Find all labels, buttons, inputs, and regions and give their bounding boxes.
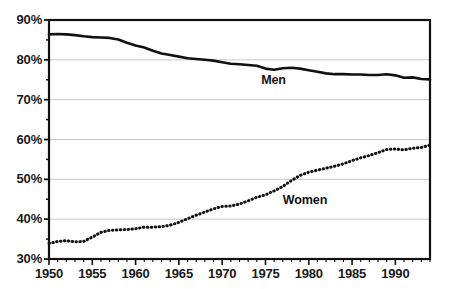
ytick-label: 90% bbox=[0, 12, 42, 27]
ytick-label: 40% bbox=[0, 211, 42, 226]
ytick-label: 70% bbox=[0, 92, 42, 107]
chart-plot-area bbox=[0, 0, 449, 289]
ytick-label: 30% bbox=[0, 251, 42, 266]
series-annotation-men: Men bbox=[261, 73, 286, 87]
ytick-label: 60% bbox=[0, 132, 42, 147]
series-annotation-women: Women bbox=[283, 193, 327, 207]
series-line-men bbox=[49, 34, 430, 79]
ytick-label: 80% bbox=[0, 52, 42, 67]
xtick-label: 1990 bbox=[370, 266, 420, 281]
series-line-women bbox=[49, 145, 430, 243]
ytick-label: 50% bbox=[0, 171, 42, 186]
labor-force-participation-chart: 90%80%70%60%50%40%30%1950195519601965197… bbox=[0, 0, 449, 289]
